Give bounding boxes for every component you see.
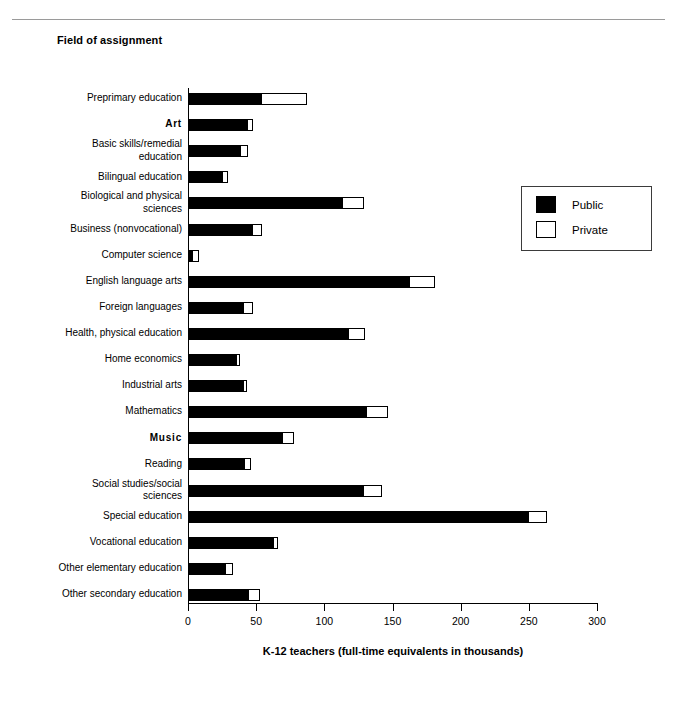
bar-row xyxy=(188,354,240,366)
bar-segment-public xyxy=(188,250,193,262)
bar-row xyxy=(188,250,199,262)
category-label-14: Reading xyxy=(24,458,182,471)
category-label-19: Other secondary education xyxy=(24,588,182,601)
category-label-text: Special education xyxy=(24,510,182,523)
category-label-4: Biological and physical sciences xyxy=(24,190,182,215)
legend-label-private: Private xyxy=(572,224,608,236)
x-tick-50 xyxy=(256,604,257,611)
category-label-1: Art xyxy=(24,118,182,131)
category-label-text: Biological and physical sciences xyxy=(24,190,182,215)
category-label-text: Industrial arts xyxy=(24,379,182,392)
legend-label-public: Public xyxy=(572,199,603,211)
bar-segment-public xyxy=(188,171,223,183)
category-label-12: Mathematics xyxy=(24,405,182,418)
category-label-text: Art xyxy=(24,118,182,131)
x-tick-label-50: 50 xyxy=(250,615,262,627)
category-label-10: Home economics xyxy=(24,353,182,366)
x-tick-label-250: 250 xyxy=(520,615,538,627)
category-label-text: Social studies/social sciences xyxy=(24,478,182,503)
category-label-text: Foreign languages xyxy=(24,301,182,314)
category-label-18: Other elementary education xyxy=(24,562,182,575)
category-label-text: English language arts xyxy=(24,275,182,288)
bar-row xyxy=(188,406,388,418)
bar-row xyxy=(188,511,547,523)
bar-row xyxy=(188,302,253,314)
x-tick-0 xyxy=(188,604,189,611)
bar-segment-public xyxy=(188,380,244,392)
bar-row xyxy=(188,485,382,497)
category-label-text: Basic skills/remedial education xyxy=(24,138,182,163)
category-label-3: Bilingual education xyxy=(24,171,182,184)
legend-swatch-public-icon xyxy=(536,196,556,213)
legend-item-private: Private xyxy=(536,221,608,238)
bar-row xyxy=(188,589,260,601)
bar-segment-public xyxy=(188,563,226,575)
bar-row xyxy=(188,563,233,575)
category-label-8: Foreign languages xyxy=(24,301,182,314)
x-tick-label-150: 150 xyxy=(384,615,402,627)
category-label-5: Business (nonvocational) xyxy=(24,223,182,236)
category-label-13: Music xyxy=(24,432,182,445)
bar-segment-public xyxy=(188,328,349,340)
bar-segment-public xyxy=(188,432,283,444)
x-tick-250 xyxy=(529,604,530,611)
bar-row xyxy=(188,171,228,183)
bar-segment-public xyxy=(188,485,364,497)
bar-row xyxy=(188,224,262,236)
x-axis-title: K-12 teachers (full-time equivalents in … xyxy=(188,645,598,657)
category-label-7: English language arts xyxy=(24,275,182,288)
category-label-text: Preprimary education xyxy=(24,92,182,105)
category-label-text: Music xyxy=(24,432,182,445)
x-tick-label-200: 200 xyxy=(452,615,470,627)
category-label-9: Health, physical education xyxy=(24,327,182,340)
bar-segment-public xyxy=(188,197,343,209)
category-label-text: Computer science xyxy=(24,249,182,262)
category-label-text: Mathematics xyxy=(24,405,182,418)
category-label-text: Other elementary education xyxy=(24,562,182,575)
bar-segment-public xyxy=(188,302,244,314)
bar-segment-public xyxy=(188,354,237,366)
bar-row xyxy=(188,276,435,288)
bar-segment-public xyxy=(188,458,245,470)
category-label-text: Health, physical education xyxy=(24,327,182,340)
legend-swatch-private-icon xyxy=(536,221,556,238)
bar-segment-public xyxy=(188,537,274,549)
category-label-text: Other secondary education xyxy=(24,588,182,601)
x-tick-label-100: 100 xyxy=(316,615,334,627)
category-label-text: Home economics xyxy=(24,353,182,366)
bar-segment-public xyxy=(188,145,241,157)
category-label-17: Vocational education xyxy=(24,536,182,549)
bar-row xyxy=(188,93,307,105)
bar-row xyxy=(188,119,253,131)
category-label-15: Social studies/social sciences xyxy=(24,478,182,503)
category-label-text: Business (nonvocational) xyxy=(24,223,182,236)
bar-row xyxy=(188,380,247,392)
category-label-11: Industrial arts xyxy=(24,379,182,392)
legend-item-public: Public xyxy=(536,196,603,213)
x-tick-100 xyxy=(324,604,325,611)
category-label-text: Reading xyxy=(24,458,182,471)
bar-chart: 050100150200250300 Preprimary educationA… xyxy=(0,0,677,702)
y-axis-line xyxy=(188,88,189,604)
category-label-text: Vocational education xyxy=(24,536,182,549)
bar-segment-public xyxy=(188,406,367,418)
bar-row xyxy=(188,197,364,209)
legend: Public Private xyxy=(521,186,652,251)
category-label-0: Preprimary education xyxy=(24,92,182,105)
x-tick-label-0: 0 xyxy=(185,615,191,627)
bar-row xyxy=(188,537,278,549)
bar-segment-public xyxy=(188,589,249,601)
x-tick-300 xyxy=(597,604,598,611)
bar-segment-public xyxy=(188,93,262,105)
bar-row xyxy=(188,145,248,157)
bar-row xyxy=(188,328,365,340)
bar-row xyxy=(188,458,251,470)
bar-segment-public xyxy=(188,276,410,288)
x-tick-150 xyxy=(393,604,394,611)
bar-row xyxy=(188,432,294,444)
category-label-6: Computer science xyxy=(24,249,182,262)
x-tick-200 xyxy=(461,604,462,611)
category-label-16: Special education xyxy=(24,510,182,523)
bar-segment-public xyxy=(188,511,529,523)
bar-segment-public xyxy=(188,224,253,236)
